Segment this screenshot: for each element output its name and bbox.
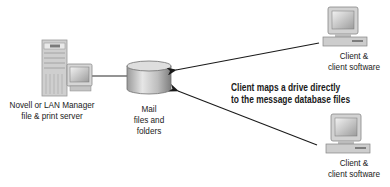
client-top-label-line2: client software <box>323 61 385 72</box>
annotation-line1: Client maps a drive directly <box>231 82 350 94</box>
annotation-caption: Client maps a drive directly to the mess… <box>231 82 350 106</box>
client-top-computer-icon <box>323 7 367 46</box>
server-label: Novell or LAN Manager file & print serve… <box>6 99 99 121</box>
client-bottom-label-line1: Client & <box>323 157 385 168</box>
storage-label-line3: folders <box>128 125 171 136</box>
server-tower-icon <box>42 40 67 96</box>
arrow-client-top-to-storage <box>176 43 319 70</box>
client-bottom-computer-icon <box>326 114 370 153</box>
storage-label-line1: Mail <box>128 103 171 114</box>
server-label-line2: file & print server <box>6 110 99 121</box>
client-top-label-line1: Client & <box>323 50 385 61</box>
server-label-line1: Novell or LAN Manager <box>6 99 99 110</box>
client-bottom-label-line2: client software <box>323 168 385 179</box>
client-bottom-label: Client & client software <box>323 157 385 179</box>
server-monitor-icon <box>67 64 92 91</box>
annotation-line2: to the message database files <box>231 94 350 106</box>
storage-label-line2: files and <box>128 114 171 125</box>
client-top-label: Client & client software <box>323 50 385 72</box>
storage-label: Mail files and folders <box>128 103 171 136</box>
database-cylinder-icon <box>127 61 171 94</box>
